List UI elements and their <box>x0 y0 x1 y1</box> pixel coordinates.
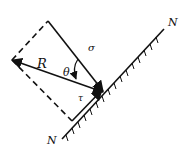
label-r: R <box>36 56 47 71</box>
label-n-top: N <box>167 16 178 29</box>
label-tau: τ <box>78 93 84 103</box>
plane-nn <box>62 29 166 141</box>
sigma-arrow <box>48 21 103 91</box>
label-theta: θ <box>63 66 70 79</box>
theta-arc <box>74 59 78 79</box>
plane-hatching <box>66 37 158 141</box>
resultant-arrow <box>12 60 103 92</box>
dashed-side-top <box>12 21 48 60</box>
label-n-bottom: N <box>46 134 57 147</box>
label-sigma: σ <box>88 42 96 53</box>
stress-diagram: R θ σ τ N N <box>0 0 190 159</box>
